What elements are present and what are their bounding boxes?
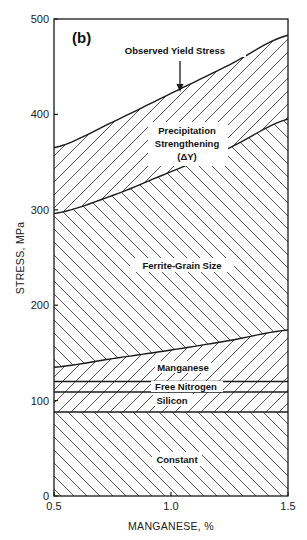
- x-axis-title: MANGANESE, %: [128, 520, 214, 532]
- label-silicon: Silicon: [153, 393, 193, 406]
- y-tick-label: 300: [31, 204, 49, 216]
- svg-text:Free Nitrogen: Free Nitrogen: [155, 381, 217, 392]
- panel-label: (b): [72, 29, 91, 46]
- svg-text:Precipitation: Precipitation: [158, 125, 216, 136]
- y-tick-label: 400: [31, 108, 49, 120]
- x-tick-label: 1.5: [280, 500, 295, 512]
- svg-text:Constant: Constant: [156, 454, 198, 465]
- svg-text:Manganese: Manganese: [157, 362, 209, 373]
- y-tick-label: 100: [31, 395, 49, 407]
- label-manganese: Manganese: [155, 361, 211, 373]
- label-precipitation: Precipitation Strengthening (ΔY): [148, 122, 228, 166]
- label-constant: Constant: [152, 452, 202, 466]
- svg-text:Ferrite-Grain Size: Ferrite-Grain Size: [142, 260, 221, 271]
- svg-text:Strengthening: Strengthening: [155, 138, 220, 149]
- label-ferrite-grain-size: Ferrite-Grain Size: [130, 258, 234, 272]
- observed-yield-label: Observed Yield Stress: [125, 45, 225, 56]
- y-tick-label: 200: [31, 299, 49, 311]
- svg-text:Silicon: Silicon: [156, 395, 187, 406]
- x-tick-label: 0.5: [46, 500, 61, 512]
- x-tick-label: 1.0: [163, 500, 178, 512]
- y-tick-label: 500: [31, 13, 49, 25]
- stress-vs-manganese-chart: 0100200300400500 0.51.01.5 STRESS, MPa M…: [0, 0, 307, 540]
- svg-text:(ΔY): (ΔY): [177, 151, 197, 162]
- y-axis-title: STRESS, MPa: [14, 222, 26, 295]
- label-free-nitrogen: Free Nitrogen: [151, 381, 223, 392]
